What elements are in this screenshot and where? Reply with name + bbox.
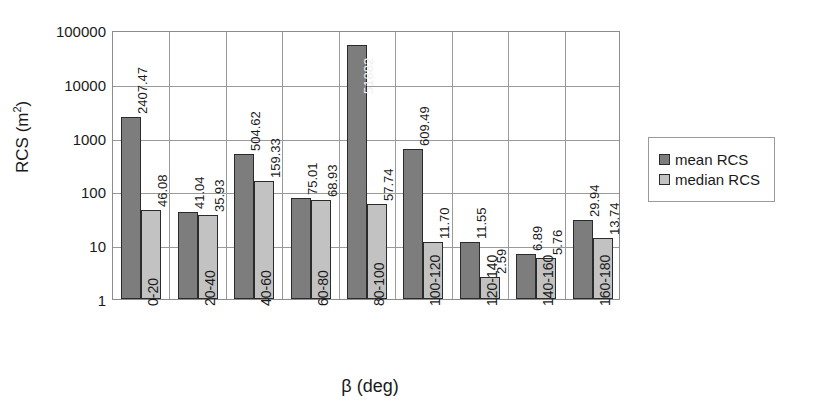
legend-item-median[interactable]: median RCS <box>659 172 760 187</box>
bar-value-label: 2407.47 <box>136 67 149 114</box>
y-axis-title-superscript: 2 <box>11 106 23 112</box>
bar-value-label: 11.55 <box>475 207 488 239</box>
bar-mean-100-120[interactable] <box>403 149 423 299</box>
legend-swatch-mean-icon <box>659 154 670 165</box>
gridline-vertical <box>395 32 396 299</box>
y-axis-title: RCS (m2) <box>11 77 33 197</box>
legend-item-mean[interactable]: mean RCS <box>659 152 760 167</box>
x-axis-tick-label: 100-120 <box>428 255 442 306</box>
legend-label-mean: mean RCS <box>675 152 748 167</box>
bar-mean-120-140[interactable] <box>460 242 480 299</box>
bar-value-label: 51882 <box>362 58 375 94</box>
y-axis-tick-label: 100000 <box>20 24 106 39</box>
legend-label-median: median RCS <box>675 172 760 187</box>
bar-value-label: 29.94 <box>588 184 601 217</box>
gridline-vertical <box>226 32 227 299</box>
bar-mean-160-180[interactable] <box>573 220 593 299</box>
bar-value-label: 5.76 <box>551 230 564 255</box>
bar-value-label: 6.89 <box>531 226 544 251</box>
bar-value-label: 504.62 <box>249 111 262 151</box>
y-axis-tick-label: 10000 <box>20 78 106 93</box>
bar-value-label: 35.93 <box>213 180 226 213</box>
chart-legend: mean RCS median RCS <box>648 137 775 202</box>
x-axis-tick-label: 40-60 <box>259 270 273 306</box>
bar-value-label: 75.01 <box>306 163 319 196</box>
y-axis-tick-label: 100 <box>20 185 106 200</box>
rcs-bar-chart: 100000100001000100101 RCS (m2) 2407.4741… <box>0 0 824 420</box>
bar-value-label: 13.74 <box>608 202 621 235</box>
bar-value-label: 11.70 <box>438 207 451 239</box>
bar-value-label: 159.33 <box>269 138 282 178</box>
x-axis-tick-label: 20-40 <box>203 270 217 306</box>
bar-value-label: 41.04 <box>193 177 206 210</box>
x-axis-tick-label: 120-140 <box>485 255 499 306</box>
gridline-vertical <box>565 32 566 299</box>
bar-mean-20-40[interactable] <box>178 212 198 299</box>
y-axis-title-tail: ) <box>13 101 32 107</box>
y-axis-title-text: RCS (m <box>13 113 32 173</box>
y-axis-tick-label: 1000 <box>20 132 106 147</box>
x-axis-tick-label: 160-180 <box>598 255 612 306</box>
bar-mean-0-20[interactable] <box>121 117 141 299</box>
x-axis-title: β (deg) <box>300 376 440 397</box>
x-axis-tick-label: 140-160 <box>541 255 555 306</box>
y-axis-tick-label: 1 <box>20 293 106 308</box>
gridline-vertical <box>169 32 170 299</box>
bar-value-label: 46.08 <box>156 174 169 207</box>
y-axis-ticks: 100000100001000100101 <box>18 0 106 420</box>
x-axis-tick-label: 60-80 <box>316 270 330 306</box>
y-axis-tick-label: 10 <box>20 239 106 254</box>
bar-value-label: 68.93 <box>326 165 339 198</box>
x-axis-tick-label: 80-100 <box>372 262 386 306</box>
bar-mean-40-60[interactable] <box>234 154 254 299</box>
bar-value-label: 609.49 <box>418 106 431 146</box>
x-axis-tick-label: 0-20 <box>146 278 160 306</box>
gridline-vertical <box>452 32 453 299</box>
bar-value-label: 57.74 <box>382 169 395 202</box>
legend-swatch-median-icon <box>659 174 670 185</box>
bar-mean-140-160[interactable] <box>516 254 536 299</box>
bar-mean-60-80[interactable] <box>291 198 311 299</box>
